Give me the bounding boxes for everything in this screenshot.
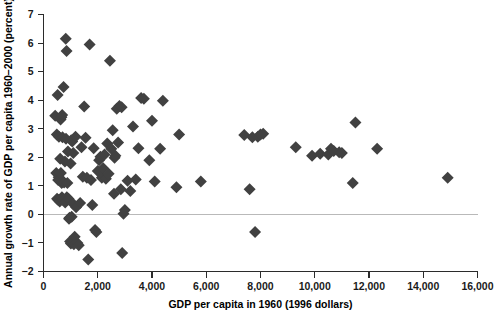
data-point bbox=[170, 181, 182, 193]
x-tick-label: 8,000 bbox=[247, 280, 273, 292]
data-point bbox=[442, 172, 454, 184]
data-point bbox=[149, 176, 161, 188]
y-axis-title: Annual growth rate of GDP per capita 196… bbox=[2, 0, 14, 288]
chart-canvas: 02,0004,0006,0008,00010,00012,00014,0001… bbox=[0, 0, 494, 312]
x-tick-label: 6,000 bbox=[193, 280, 219, 292]
data-point bbox=[249, 226, 261, 238]
data-point bbox=[290, 141, 302, 153]
x-tick-label: 14,000 bbox=[407, 280, 439, 292]
x-tick-label: 10,000 bbox=[299, 280, 331, 292]
y-tick-label: −2 bbox=[22, 265, 34, 277]
data-point bbox=[60, 33, 72, 45]
y-tick-label: 7 bbox=[28, 8, 34, 20]
data-point bbox=[244, 183, 256, 195]
data-point bbox=[154, 143, 166, 155]
x-tick-label: 16,000 bbox=[461, 280, 493, 292]
data-point bbox=[127, 120, 139, 132]
data-point bbox=[86, 199, 98, 211]
y-tick-label: 5 bbox=[28, 65, 34, 77]
x-tick-label: 4,000 bbox=[139, 280, 165, 292]
x-tick-label: 2,000 bbox=[85, 280, 111, 292]
y-tick-label: 4 bbox=[28, 94, 34, 106]
data-point bbox=[124, 185, 136, 197]
data-point bbox=[143, 154, 155, 166]
y-tick-label: 6 bbox=[28, 37, 34, 49]
x-tick-label: 12,000 bbox=[353, 280, 385, 292]
y-tick-label: 1 bbox=[28, 180, 34, 192]
data-point bbox=[82, 254, 94, 266]
x-tick-label: 0 bbox=[41, 280, 47, 292]
data-points-layer bbox=[49, 33, 453, 266]
data-point bbox=[195, 176, 207, 188]
data-point bbox=[173, 128, 185, 140]
x-tick-labels: 02,0004,0006,0008,00010,00012,00014,0001… bbox=[41, 280, 494, 292]
data-point bbox=[78, 100, 90, 112]
data-point bbox=[347, 177, 359, 189]
data-point bbox=[88, 142, 100, 154]
scatter-plot-figure: 02,0004,0006,0008,00010,00012,00014,0001… bbox=[0, 0, 494, 312]
data-point bbox=[116, 247, 128, 259]
y-tick-label: 2 bbox=[28, 151, 34, 163]
data-point bbox=[371, 143, 383, 155]
y-tick-label: 3 bbox=[28, 123, 34, 135]
y-tick-labels: −2−101234567 bbox=[22, 8, 34, 277]
tick-marks-layer bbox=[38, 15, 478, 278]
y-tick-label: −1 bbox=[22, 237, 34, 249]
y-tick-label: 0 bbox=[28, 208, 34, 220]
x-axis-title: GDP per capita in 1960 (1996 dollars) bbox=[168, 298, 352, 310]
data-point bbox=[104, 55, 116, 67]
data-point bbox=[84, 38, 96, 50]
data-point bbox=[61, 45, 73, 57]
data-point bbox=[349, 116, 361, 128]
data-point bbox=[107, 124, 119, 136]
data-point bbox=[130, 174, 142, 186]
data-point bbox=[146, 115, 158, 127]
data-point bbox=[157, 95, 169, 107]
data-point bbox=[132, 142, 144, 154]
